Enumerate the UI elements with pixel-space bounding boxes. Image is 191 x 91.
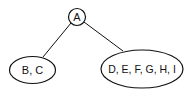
node-right-label: D, E, F, G, H, I [108,63,176,75]
node-left-label: B, C [22,64,43,76]
node-root-label: A [73,11,81,23]
tree-diagram: A B, C D, E, F, G, H, I [0,0,191,91]
node-right: D, E, F, G, H, I [101,50,183,88]
edge-root-right [84,22,123,51]
node-root: A [69,9,86,26]
node-left: B, C [10,57,56,84]
edge-root-left [43,23,71,57]
